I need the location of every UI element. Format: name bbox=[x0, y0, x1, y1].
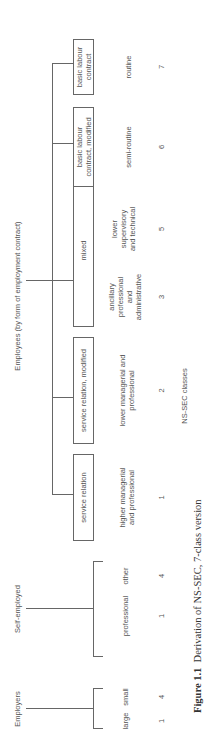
figure-caption-text: Derivation of NS-SEC, 7-class version bbox=[192, 499, 203, 662]
drop-6 bbox=[52, 143, 73, 144]
employers-small-class: 4 bbox=[157, 685, 166, 709]
employers-stem bbox=[26, 708, 93, 709]
employers-large-class: 1 bbox=[157, 709, 166, 733]
employers-small-label: small bbox=[121, 685, 130, 709]
employers-bracket-left bbox=[93, 728, 103, 729]
ns-sec-classes-label: NS-SEC classes bbox=[180, 351, 189, 441]
box-mixed: mixed bbox=[73, 174, 94, 327]
employers-bracket-right bbox=[93, 688, 103, 689]
group-title-employers: Employers bbox=[13, 679, 22, 739]
box-basic-labour-contract: basic labour contract bbox=[73, 39, 94, 95]
box-service-relation-modified: service relation, modified bbox=[73, 337, 94, 444]
class-label-6: semi-routine bbox=[124, 107, 133, 187]
self-employed-bracket-right bbox=[93, 561, 103, 562]
class-label-2: lower managerial and professional bbox=[118, 337, 136, 444]
class-number-6: 6 bbox=[157, 107, 166, 187]
drop-2 bbox=[52, 397, 73, 398]
box-basic-labour-contract-modified-label: basic labour contract, modified bbox=[75, 117, 93, 176]
class-number-5: 5 bbox=[157, 195, 166, 263]
drop-1 bbox=[52, 494, 73, 495]
class-number-7: 7 bbox=[157, 39, 166, 95]
box-service-relation: service relation bbox=[73, 454, 94, 541]
box-basic-labour-contract-label: basic labour contract bbox=[75, 47, 93, 87]
self-employed-stem bbox=[26, 608, 93, 609]
self-employed-professional-label: professional bbox=[121, 591, 130, 641]
class-label-1: higher managerial and professional bbox=[118, 454, 136, 541]
ns-sec-derivation-diagram: Employers large small 1 4 Self-employed … bbox=[0, 0, 208, 741]
group-title-employees: Employees (by form of employment contrac… bbox=[13, 186, 22, 406]
group-title-self-employed: Self-employed bbox=[13, 574, 22, 644]
figure-number: Figure 1.1 bbox=[192, 668, 203, 713]
class-label-3: ancillary professional and administrativ… bbox=[107, 263, 143, 331]
employers-bracket bbox=[93, 689, 94, 729]
class-number-2: 2 bbox=[157, 337, 166, 444]
box-basic-labour-contract-modified: basic labour contract, modified bbox=[73, 107, 94, 187]
figure-caption: Figure 1.1 Derivation of NS-SEC, 7-class… bbox=[192, 499, 203, 713]
employers-large-label: large bbox=[121, 709, 130, 733]
class-number-1: 1 bbox=[157, 454, 166, 541]
class-label-7: routine bbox=[124, 39, 133, 95]
class-label-5: lower supervisory and technical bbox=[110, 195, 137, 263]
class-number-3: 3 bbox=[157, 263, 166, 331]
self-employed-bracket-left bbox=[93, 656, 103, 657]
self-employed-other-class: 4 bbox=[157, 561, 166, 591]
employees-stem bbox=[26, 280, 52, 281]
drop-7 bbox=[52, 63, 73, 64]
self-employed-other-label: other bbox=[121, 561, 130, 591]
self-employed-bracket bbox=[93, 562, 94, 657]
self-employed-professional-class: 1 bbox=[157, 591, 166, 641]
drop-3 bbox=[52, 280, 73, 281]
